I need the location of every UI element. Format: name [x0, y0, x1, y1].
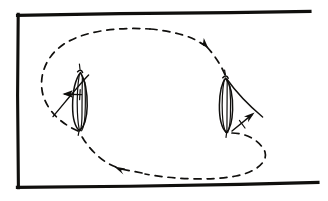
loop-segment-bottom — [121, 169, 142, 173]
right-figure-top-whisker — [225, 70, 226, 75]
right-figure-rib-1 — [222, 80, 226, 133]
left-direction-arrow — [53, 75, 89, 117]
loop-segment-lower-right — [145, 133, 265, 179]
right-figure-base-tick — [226, 133, 227, 137]
left-figure-base-tick — [78, 131, 79, 135]
loop-segment-right — [207, 47, 226, 77]
sketch-drawing — [0, 0, 328, 201]
left-pointer-cross-tick — [80, 90, 81, 100]
upper-right-arrowhead-icon — [198, 38, 208, 49]
loop-arrowheads — [114, 38, 209, 175]
frame-bottom-edge — [17, 182, 318, 187]
frame-top-edge — [18, 11, 311, 15]
loop-segment-bottom-left — [79, 132, 116, 167]
bottom-left-arrowhead-icon — [114, 166, 125, 174]
loop-segment-upper-left — [42, 28, 150, 131]
left-figure-top-whisker — [79, 64, 80, 69]
enclosure-frame — [17, 11, 318, 187]
right-figure — [219, 70, 232, 137]
sketch-canvas: Hand-drawn motion sketch Rectangular enc… — [0, 0, 328, 201]
frame-left-edge — [18, 14, 19, 187]
left-figure-rib-1 — [77, 74, 79, 131]
loop-segment-top-right — [150, 29, 204, 45]
